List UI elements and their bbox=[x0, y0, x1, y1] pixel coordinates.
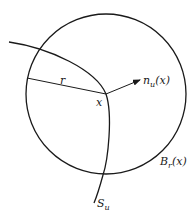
ball-surface-diagram: r x nu(x) Br(x) Su bbox=[0, 0, 192, 215]
point-label: x bbox=[96, 96, 103, 109]
radius-line bbox=[27, 78, 106, 94]
ball-label: Br(x) bbox=[159, 155, 187, 170]
surface-label: Su bbox=[97, 197, 110, 212]
normal-label: nu(x) bbox=[143, 74, 170, 89]
radius-label: r bbox=[60, 74, 66, 87]
surface-curve bbox=[9, 42, 109, 203]
normal-arrow bbox=[106, 80, 140, 94]
